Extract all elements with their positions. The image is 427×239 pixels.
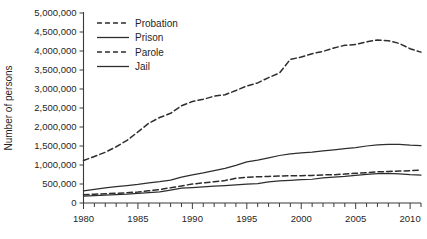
x-tick-label: 2000 [291,213,312,224]
y-axis: 0500,0001,000,0001,500,0002,000,0002,500… [34,7,83,208]
y-tick-label: 2,500,000 [34,102,76,113]
x-tick-label: 1985 [127,213,148,224]
x-axis: 1980198519901995200020052010 [73,203,421,224]
y-tick-label: 500,000 [42,178,76,189]
x-tick-label: 1995 [236,213,257,224]
x-tick-marks [84,203,422,209]
chart-legend: ProbationPrisonParoleJail [97,18,178,73]
y-tick-label: 1,000,000 [34,159,76,170]
x-tick-labels: 1980198519901995200020052010 [73,213,421,224]
legend-label-prison: Prison [135,32,163,43]
legend-label-jail: Jail [135,61,150,72]
y-tick-label: 5,000,000 [34,7,76,18]
y-tick-marks [80,13,84,203]
legend-label-probation: Probation [135,18,178,29]
y-tick-label: 3,000,000 [34,83,76,94]
x-tick-label: 2005 [345,213,366,224]
y-axis-title: Number of persons [3,65,14,150]
line-chart: 0500,0001,000,0001,500,0002,000,0002,500… [0,0,427,239]
series-line-probation [84,40,422,161]
y-tick-label: 2,000,000 [34,121,76,132]
y-tick-labels: 0500,0001,000,0001,500,0002,000,0002,500… [34,7,76,208]
legend-label-parole: Parole [135,47,164,58]
y-tick-label: 0 [71,197,76,208]
x-tick-label: 2010 [400,213,421,224]
y-tick-label: 4,000,000 [34,45,76,56]
y-tick-label: 1,500,000 [34,140,76,151]
x-tick-label: 1990 [182,213,203,224]
x-tick-label: 1980 [73,213,94,224]
chart-canvas: 0500,0001,000,0001,500,0002,000,0002,500… [0,0,427,239]
y-tick-label: 3,500,000 [34,64,76,75]
y-tick-label: 4,500,000 [34,26,76,37]
